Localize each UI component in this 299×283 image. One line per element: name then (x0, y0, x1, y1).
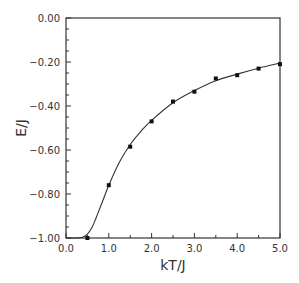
x-tick-label: 5.0 (272, 243, 288, 254)
plot-border (66, 18, 280, 238)
data-point (107, 183, 111, 187)
x-axis-label: kT/J (160, 257, 186, 273)
data-point (128, 145, 132, 149)
data-point (235, 73, 239, 77)
x-tick-label: 2.0 (144, 243, 160, 254)
y-tick-label: −0.20 (29, 57, 60, 68)
x-axis: 0.01.02.03.04.05.0 (58, 233, 288, 254)
chart: 0.00−0.20−0.40−0.60−0.80−1.00 0.01.02.03… (0, 0, 299, 283)
data-point (214, 77, 218, 81)
theory-curve (66, 63, 280, 238)
y-axis-label: E/J (13, 119, 29, 137)
data-point (171, 100, 175, 104)
y-tick-label: −0.40 (29, 101, 60, 112)
data-point (85, 236, 89, 240)
data-point (150, 119, 154, 123)
y-tick-label: −1.00 (29, 233, 60, 244)
plot-frame (66, 18, 280, 238)
x-tick-label: 4.0 (229, 243, 245, 254)
x-tick-label: 1.0 (101, 243, 117, 254)
y-tick-label: 0.00 (38, 13, 60, 24)
y-axis: 0.00−0.20−0.40−0.60−0.80−1.00 (29, 13, 71, 244)
simulation-markers (85, 62, 282, 240)
data-point (278, 62, 282, 66)
x-tick-label: 0.0 (58, 243, 74, 254)
data-point (192, 90, 196, 94)
y-tick-label: −0.60 (29, 145, 60, 156)
x-tick-label: 3.0 (186, 243, 202, 254)
data-point (257, 67, 261, 71)
y-tick-label: −0.80 (29, 189, 60, 200)
